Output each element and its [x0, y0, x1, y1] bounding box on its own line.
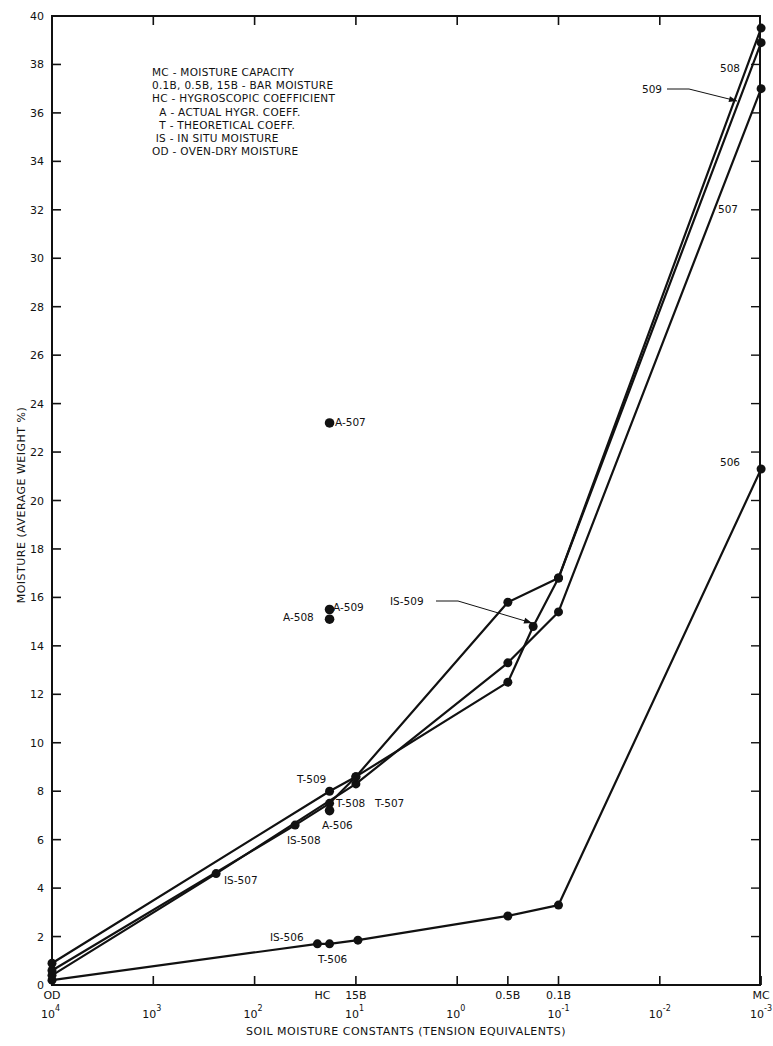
x-tick-label: 10	[345, 1008, 359, 1021]
legend-entry: OD - OVEN-DRY MOISTURE	[152, 145, 299, 157]
data-point	[503, 598, 512, 607]
y-tick-label: 18	[30, 543, 44, 556]
y-tick-label: 36	[30, 107, 44, 120]
point-label: T-506	[317, 953, 348, 965]
point-label: IS-509	[390, 595, 424, 607]
data-points	[48, 24, 766, 985]
data-point	[503, 911, 512, 920]
data-series	[52, 28, 761, 980]
data-point	[313, 939, 322, 948]
point-label: T-508	[335, 797, 365, 809]
series-508-line	[52, 43, 761, 971]
data-point	[353, 936, 362, 945]
y-tick-label: 10	[30, 737, 44, 750]
x-tick-exponent: 3	[156, 1004, 161, 1013]
data-point	[503, 658, 512, 667]
plot-frame	[52, 16, 760, 985]
soil-moisture-chart: 0246810121416182022242628303234363840 OD…	[0, 0, 773, 1046]
y-tick-label: 32	[30, 204, 44, 217]
y-tick-label: 20	[30, 495, 44, 508]
x-tick-exponent: -1	[562, 1004, 570, 1013]
series-506-line	[52, 469, 761, 980]
point-label: A-507	[335, 416, 366, 428]
data-point	[554, 574, 563, 583]
y-axis-title: MOISTURE (AVERAGE WEIGHT %)	[15, 407, 28, 604]
y-tick-label: 24	[30, 398, 44, 411]
x-tick-top-label: 0.5B	[495, 989, 520, 1002]
legend-entry: 0.1B, 0.5B, 15B - BAR MOISTURE	[152, 79, 333, 91]
x-tick-label: 10	[649, 1008, 663, 1021]
point-label: 508	[720, 62, 740, 74]
x-tick-top-label: 0.1B	[546, 989, 571, 1002]
legend-entry: HC - HYGROSCOPIC COEFFICIENT	[152, 92, 335, 104]
legend: MC - MOISTURE CAPACITY0.1B, 0.5B, 15B - …	[152, 66, 335, 157]
y-tick-label: 30	[30, 252, 44, 265]
y-tick-label: 28	[30, 301, 44, 314]
data-point	[757, 465, 766, 474]
y-tick-label: 14	[30, 640, 44, 653]
y-axis-ticks: 0246810121416182022242628303234363840	[30, 10, 760, 992]
y-tick-label: 2	[37, 931, 44, 944]
point-annotations: T-509T-508T-507A-506IS-508IS-507IS-506T-…	[224, 62, 740, 965]
data-point	[351, 772, 360, 781]
data-point	[325, 787, 334, 796]
x-tick-top-label: MC	[753, 989, 770, 1002]
point-label: IS-507	[224, 874, 258, 886]
y-tick-label: 22	[30, 446, 44, 459]
series-509-line	[52, 28, 761, 963]
x-tick-label: 10	[750, 1008, 764, 1021]
annotation-arrow-line	[667, 89, 737, 101]
x-tick-label: 10	[548, 1008, 562, 1021]
x-tick-exponent: -3	[764, 1004, 772, 1013]
y-tick-label: 6	[37, 834, 44, 847]
point-label: 507	[718, 203, 738, 215]
series-507-line	[52, 89, 761, 976]
data-point	[757, 24, 766, 33]
data-point	[757, 38, 766, 47]
x-tick-label: 10	[41, 1008, 55, 1021]
x-axis-ticks: OD1041031021011000.5B0.1B10-110-2MC10-3H…	[41, 16, 772, 1021]
y-tick-label: 34	[30, 155, 44, 168]
data-point	[212, 869, 221, 878]
data-point	[291, 821, 300, 830]
point-label: IS-506	[270, 931, 304, 943]
x-tick-top-label: OD	[43, 989, 60, 1002]
legend-entry: MC - MOISTURE CAPACITY	[152, 66, 295, 78]
x-extra-label: 15B	[345, 989, 367, 1002]
data-point	[757, 84, 766, 93]
point-label: T-507	[374, 797, 404, 809]
y-tick-label: 26	[30, 349, 44, 362]
point-label: A-509	[333, 601, 364, 613]
point-label: A-506	[322, 819, 353, 831]
x-tick-exponent: 4	[55, 1004, 60, 1013]
x-tick-exponent: 1	[359, 1004, 364, 1013]
data-point	[48, 959, 57, 968]
point-label: 506	[720, 456, 740, 468]
point-label: 509	[642, 83, 662, 95]
y-tick-label: 12	[30, 688, 44, 701]
data-point	[503, 678, 512, 687]
data-point	[554, 901, 563, 910]
x-tick-exponent: 2	[258, 1004, 263, 1013]
y-tick-label: 8	[37, 785, 44, 798]
isolated-point	[325, 614, 335, 624]
y-tick-label: 16	[30, 591, 44, 604]
isolated-point	[325, 418, 335, 428]
point-label: T-509	[296, 773, 326, 785]
x-tick-label: 10	[446, 1008, 460, 1021]
data-point	[529, 622, 538, 631]
data-point	[554, 607, 563, 616]
arrow-head-icon	[523, 618, 532, 624]
y-tick-label: 38	[30, 58, 44, 71]
x-tick-exponent: -2	[663, 1004, 671, 1013]
x-tick-exponent: 0	[460, 1004, 465, 1013]
annotation-arrow-line	[436, 601, 532, 623]
x-axis-title: SOIL MOISTURE CONSTANTS (TENSION EQUIVAL…	[246, 1025, 566, 1038]
legend-entry: IS - IN SITU MOISTURE	[152, 132, 279, 144]
legend-entry: A - ACTUAL HYGR. COEFF.	[152, 106, 301, 118]
y-tick-label: 4	[37, 882, 44, 895]
isolated-point	[325, 806, 335, 816]
point-label: A-508	[283, 611, 314, 623]
legend-entry: T - THEORETICAL COEFF.	[152, 119, 295, 131]
x-tick-label: 10	[142, 1008, 156, 1021]
